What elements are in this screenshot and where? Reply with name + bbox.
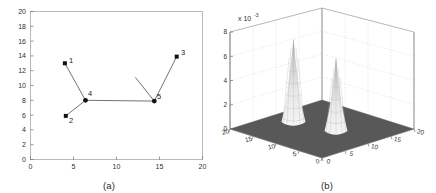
panel-a-ytick-6: 6	[22, 112, 26, 119]
panel-a-xtick-15: 15	[156, 163, 164, 170]
panel-b-peak-2	[325, 57, 348, 135]
panel-b-xtick-0: 0	[326, 157, 331, 165]
panel-b-xtick-15: 15	[393, 135, 402, 144]
panel-b-z-exponent-label: x 10 -3	[238, 12, 259, 22]
node-label-4: 4	[88, 89, 92, 98]
edge-1-4	[65, 63, 86, 100]
panel-b-ztick-6: 6	[223, 53, 227, 60]
panel-a-ytick-4: 4	[22, 126, 26, 133]
panel-a-ytick-0: 0	[22, 156, 26, 163]
panel-a-axes-frame	[31, 12, 203, 160]
panel-b-ytick-20: 20	[221, 127, 230, 136]
panel-a-graph-plot: 0 2 4 6 8 10 12 14 16 18 20 0 5	[0, 0, 218, 193]
panel-b-xtick-10: 10	[370, 142, 379, 151]
edge-5-free	[135, 77, 154, 101]
panel-b-peak-1	[282, 38, 306, 126]
edge-4-5	[86, 100, 155, 101]
panel-a-ytick-20: 20	[18, 8, 26, 15]
panel-b-z-axis: 8 6 4 2 0	[223, 28, 233, 132]
panel-b-svg: x 10 -3	[218, 0, 436, 193]
exponent-power: -3	[254, 12, 259, 18]
panel-a-xtick-0: 0	[29, 163, 33, 170]
panel-a-ytick-8: 8	[22, 97, 26, 104]
panel-a-x-axis: 0 5 10 15 20	[29, 157, 207, 171]
node-marker-1[interactable]	[63, 61, 67, 65]
node-label-3: 3	[181, 48, 185, 57]
panel-b-ztick-4: 4	[223, 77, 227, 84]
panel-a-xtick-20: 20	[199, 163, 207, 170]
node-label-2: 2	[69, 116, 73, 125]
node-marker-2[interactable]	[64, 114, 68, 118]
panel-a-xtick-10: 10	[113, 163, 121, 170]
panel-a-ytick-14: 14	[18, 52, 26, 59]
edge-2-4	[66, 100, 86, 116]
panel-a-ytick-12: 12	[18, 67, 26, 74]
panel-a-svg: 0 2 4 6 8 10 12 14 16 18 20 0 5	[0, 0, 218, 193]
exponent-mantissa: x 10	[238, 15, 251, 22]
node-marker-3[interactable]	[175, 55, 179, 59]
panel-a-y-axis: 0 2 4 6 8 10 12 14 16 18 20	[18, 8, 33, 163]
panel-a-ytick-10: 10	[18, 82, 26, 89]
panel-b-ytick-5: 5	[292, 150, 297, 158]
panel-b-xtick-20: 20	[416, 127, 425, 136]
panel-a-ytick-2: 2	[22, 141, 26, 148]
panel-b-ztick-8: 8	[223, 28, 227, 35]
panel-b-ytick-0: 0	[315, 157, 320, 165]
panel-b-base-plane	[230, 100, 414, 158]
node-marker-5[interactable]	[152, 99, 157, 104]
panel-a-node-labels: 1 2 3 4 5	[69, 48, 185, 125]
panel-a-ytick-18: 18	[18, 23, 26, 30]
panel-a-ytick-16: 16	[18, 38, 26, 45]
panel-a-caption: (a)	[0, 180, 218, 191]
panel-a-xtick-5: 5	[72, 163, 76, 170]
figure-container: 0 2 4 6 8 10 12 14 16 18 20 0 5	[0, 0, 436, 193]
panel-b-caption: (b)	[218, 180, 436, 191]
panel-a-edges	[65, 57, 177, 116]
node-marker-4[interactable]	[83, 98, 88, 103]
panel-b-xtick-5: 5	[349, 150, 354, 158]
panel-b-surface-plot: x 10 -3	[218, 0, 436, 193]
node-label-5: 5	[157, 92, 161, 101]
panel-b-ztick-2: 2	[223, 101, 227, 108]
node-label-1: 1	[69, 56, 73, 65]
